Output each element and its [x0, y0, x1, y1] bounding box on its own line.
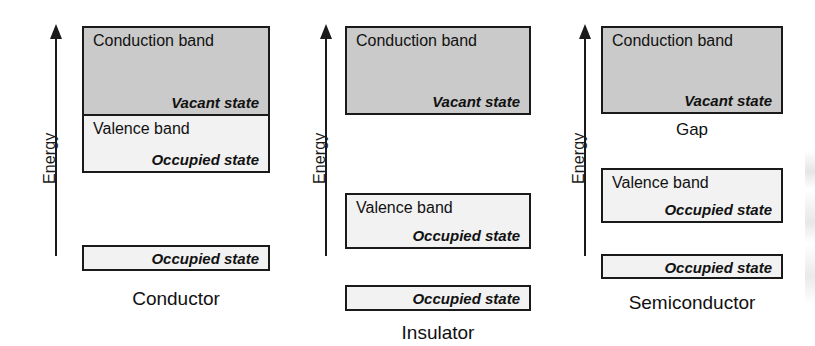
energy-axis-label: Energy: [570, 133, 588, 184]
panel-conductor: Energy Conduction band Vacant state Vale…: [0, 0, 300, 346]
core-band-conductor: Occupied state: [82, 245, 270, 271]
band-state: Occupied state: [412, 227, 520, 244]
panel-insulator: Energy Conduction band Vacant state Vale…: [300, 0, 565, 346]
energy-axis-label: Energy: [41, 133, 59, 184]
panel-semiconductor: Energy Conduction band Vacant state Gap …: [565, 0, 815, 346]
band-state: Occupied state: [151, 250, 259, 267]
valence-band-insulator: Valence band Occupied state: [345, 193, 531, 249]
valence-band-semiconductor: Valence band Occupied state: [601, 168, 783, 223]
energy-axis-label: Energy: [311, 133, 329, 184]
caption-semiconductor: Semiconductor: [629, 292, 756, 314]
band-state: Vacant state: [684, 92, 772, 109]
band-title: Conduction band: [93, 32, 214, 50]
band-title: Valence band: [356, 199, 453, 217]
conduction-band-conductor: Conduction band Vacant state: [82, 26, 270, 116]
band-state: Vacant state: [432, 93, 520, 110]
caption-conductor: Conductor: [132, 288, 220, 310]
core-band-semiconductor: Occupied state: [601, 254, 783, 279]
scan-edge-artifact: [805, 150, 815, 330]
band-state: Occupied state: [151, 151, 259, 168]
band-title: Valence band: [93, 120, 190, 138]
gap-label: Gap: [601, 120, 783, 140]
band-title: Conduction band: [612, 32, 733, 50]
band-title: Valence band: [612, 174, 709, 192]
conduction-band-semiconductor: Conduction band Vacant state: [601, 26, 783, 114]
band-state: Occupied state: [412, 290, 520, 307]
core-band-insulator: Occupied state: [345, 285, 531, 311]
valence-band-conductor: Valence band Occupied state: [82, 116, 270, 173]
band-title: Conduction band: [356, 32, 477, 50]
band-state: Vacant state: [171, 94, 259, 111]
conduction-band-insulator: Conduction band Vacant state: [345, 26, 531, 115]
band-state: Occupied state: [664, 201, 772, 218]
band-state: Occupied state: [664, 258, 772, 275]
energy-band-diagram: Energy Conduction band Vacant state Vale…: [0, 0, 815, 346]
caption-insulator: Insulator: [402, 322, 475, 344]
